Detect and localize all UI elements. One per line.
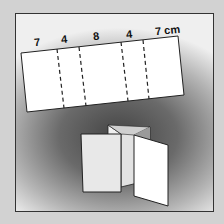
paper-strip <box>21 36 184 112</box>
width-label-2: 4 <box>60 34 67 46</box>
width-label-4: 4 <box>125 29 132 41</box>
width-label-3: 8 <box>92 31 99 43</box>
diagram-canvas <box>0 0 224 224</box>
width-label-1: 7 <box>33 37 40 49</box>
folded-model <box>81 125 168 206</box>
